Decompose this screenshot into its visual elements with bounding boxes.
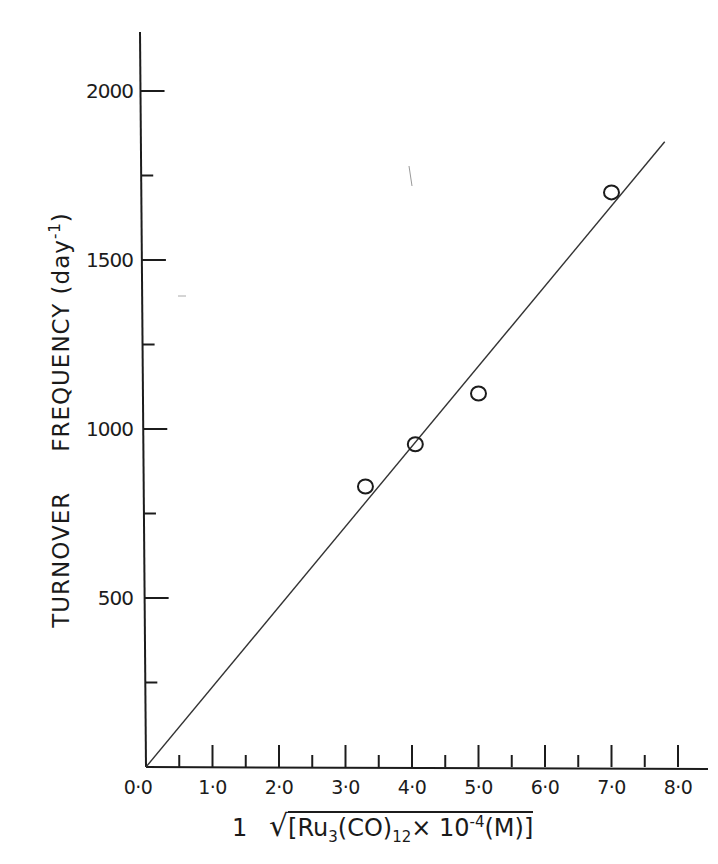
x-tick-label: 6·0 xyxy=(531,776,560,798)
data-point-circle xyxy=(358,479,373,493)
x-tick-label: 1·0 xyxy=(198,776,227,798)
y-tick-label: 1500 xyxy=(73,248,133,272)
x-tick-label: 5·0 xyxy=(464,776,493,798)
y-axis xyxy=(140,32,146,767)
x-tick-label: 7·0 xyxy=(597,776,626,798)
y-label-frequency: FREQUENCY xyxy=(48,303,74,452)
data-point-circle xyxy=(604,185,619,199)
y-tick-label: 1000 xyxy=(73,417,133,441)
fit-line xyxy=(146,142,665,767)
x-axis-label: 1 √[Ru3(CO)12× 10-4(M)] xyxy=(232,808,533,846)
x-tick-label: 3·0 xyxy=(331,776,360,798)
y-label-close: ) xyxy=(48,212,74,222)
y-tick-label: 500 xyxy=(73,586,133,610)
y-label-unit-sup: -1 xyxy=(46,222,64,239)
y-tick-label: 2000 xyxy=(73,79,133,103)
x-axis xyxy=(146,767,708,769)
x-tick-label: 0·0 xyxy=(124,776,153,798)
x-tick-label: 4·0 xyxy=(398,776,427,798)
x-label-prefix: 1 xyxy=(232,814,247,842)
data-point-circle xyxy=(471,387,486,401)
y-axis-label: TURNOVERFREQUENCY (day-1) xyxy=(46,212,74,628)
x-tick-label: 2·0 xyxy=(265,776,294,798)
x-label-radicand: [Ru3(CO)12× 10-4(M)] xyxy=(288,811,533,842)
data-point-circle xyxy=(408,437,423,451)
x-tick-label: 8·0 xyxy=(664,776,693,798)
sqrt-icon: √ xyxy=(269,808,288,843)
axes xyxy=(140,32,708,769)
stray-mark xyxy=(409,166,412,186)
y-label-unit: (day xyxy=(48,239,74,294)
y-label-turnover: TURNOVER xyxy=(48,492,74,628)
